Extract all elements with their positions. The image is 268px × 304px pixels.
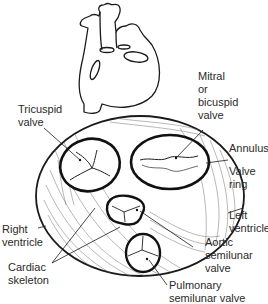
label-cardiac-skeleton: Cardiac skeleton	[8, 261, 49, 287]
label-annulus: Annulus	[229, 142, 268, 155]
label-left-ventricle: Left ventricle	[229, 209, 268, 235]
aortic-valve-shape	[107, 196, 144, 225]
label-tricuspid-valve: Tricuspid valve	[18, 103, 62, 129]
heart-outline-icon	[79, 3, 159, 113]
pulmonary-valve-shape	[126, 234, 160, 272]
label-aortic-valve: Aortic semilunar valve	[205, 236, 253, 275]
mitral-valve-shape	[131, 135, 209, 189]
label-mitral-valve: Mitral or bicuspid valve	[198, 70, 238, 122]
label-valve-ring: Valve ring	[229, 165, 256, 191]
label-pulmonary-valve: Pulmonary semilunar valve	[169, 279, 245, 304]
label-right-ventricle: Right ventricle	[2, 223, 43, 249]
heart-valve-diagram: Tricuspid valve Mitral or bicuspid valve…	[0, 0, 268, 304]
